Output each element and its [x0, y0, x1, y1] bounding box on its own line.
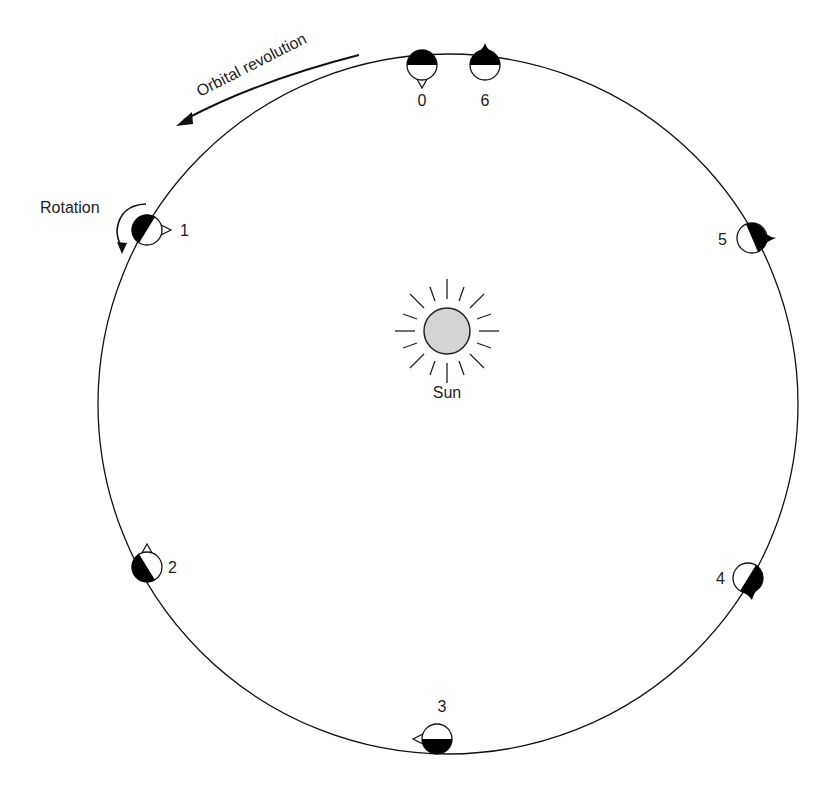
orbital-diagram: Orbital revolution Sun 0	[0, 0, 833, 801]
planet-label-3: 3	[438, 698, 447, 715]
planet-5	[737, 223, 776, 253]
planet-0	[407, 50, 437, 88]
planet-3	[413, 724, 452, 754]
orbit-path	[98, 54, 798, 754]
planet-label-5: 5	[718, 231, 727, 248]
planet-label-1: 1	[180, 222, 189, 239]
planet-6	[470, 43, 500, 80]
planet-4	[733, 563, 763, 600]
planet-1	[132, 215, 171, 245]
planet-label-0: 0	[418, 92, 427, 109]
rotation-label: Rotation	[40, 199, 100, 216]
sun-icon	[395, 279, 499, 383]
planet-label-4: 4	[716, 570, 725, 587]
sun-label: Sun	[433, 384, 461, 401]
planet-2	[132, 544, 162, 582]
planet-label-2: 2	[168, 559, 177, 576]
planet-label-6: 6	[481, 92, 490, 109]
